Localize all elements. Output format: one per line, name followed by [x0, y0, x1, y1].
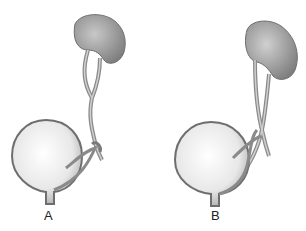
- panel-label-b: B: [211, 208, 220, 223]
- kidney-ureter-bladder-illustration-a: [0, 0, 153, 231]
- panel-a: A: [0, 0, 153, 231]
- panel-b: B: [153, 0, 306, 231]
- kidney-icon: [74, 15, 125, 64]
- bladder-icon: [175, 122, 249, 206]
- panel-label-a: A: [44, 208, 53, 223]
- kidney-ureter-bladder-illustration-b: [153, 0, 306, 231]
